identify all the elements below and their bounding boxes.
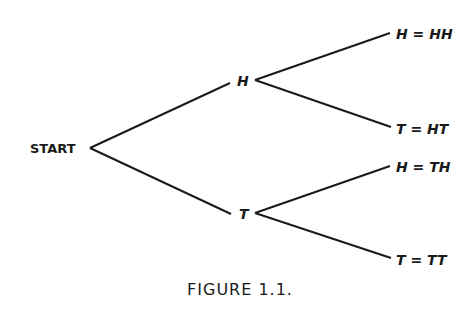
- root-label-start: START: [30, 141, 76, 156]
- edge-h-to-hh: [255, 33, 390, 80]
- node-label-h: H: [237, 73, 249, 89]
- leaf-label-ht: T = HT: [396, 121, 450, 137]
- node-label-t: T: [239, 206, 250, 222]
- edge-t-to-th: [255, 166, 390, 213]
- figure-caption: FIGURE 1.1.: [187, 280, 293, 299]
- leaf-label-hh: H = HH: [396, 26, 453, 42]
- edge-t-to-tt: [255, 213, 391, 258]
- edge-start-to-t: [90, 148, 231, 214]
- edge-start-to-h: [90, 83, 230, 148]
- leaf-label-th: H = TH: [396, 159, 451, 175]
- leaf-label-tt: T = TT: [396, 252, 448, 268]
- edge-h-to-ht: [255, 80, 391, 127]
- tree-diagram: START H T H = HH T = HT H = TH T = TT FI…: [0, 0, 475, 316]
